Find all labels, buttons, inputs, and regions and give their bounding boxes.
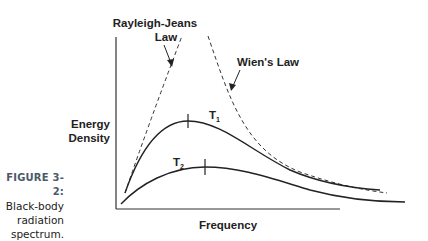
y-axis-label-line2: Density [68,132,110,144]
wien-arrowhead [229,83,236,91]
t1-label: T1 [209,109,220,123]
t2-label: T2 [173,156,184,170]
t1-curve [125,121,380,193]
t2-curve [121,167,405,204]
rj-label-line1: Rayleigh-Jeans [113,17,197,29]
x-axis-label: Frequency [199,219,258,231]
y-axis-label-line1: Energy [71,118,111,130]
wien-label: Wien's Law [237,56,299,68]
blackbody-chart: Rayleigh-Jeans Law Wien's Law T1 T2 Ener… [0,0,428,241]
rj-label-line2: Law [155,31,177,43]
wien-arrow [233,70,240,86]
